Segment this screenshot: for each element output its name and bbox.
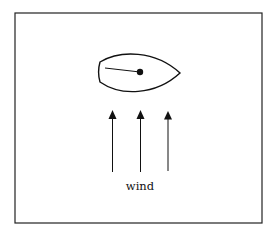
wind-arrow-right [164,111,172,171]
wind-arrow-center [137,110,145,172]
wind-label: wind [126,179,155,193]
wind-arrows [109,110,173,172]
arrowhead-icon [109,110,117,119]
arrowhead-icon [164,111,172,120]
mast-dot [137,69,143,75]
arrowhead-icon [137,110,145,119]
wind-arrow-left [109,110,117,172]
diagram-canvas: wind [0,0,272,237]
sailboat [99,54,181,92]
